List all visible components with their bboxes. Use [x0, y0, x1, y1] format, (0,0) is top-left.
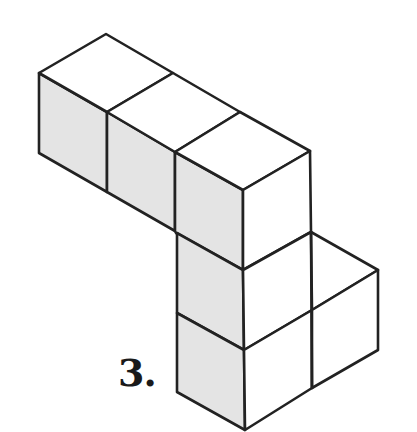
cube-structure: [39, 34, 378, 430]
figure-number-label: 3.: [118, 354, 156, 392]
edge: [311, 232, 312, 388]
isometric-cube-figure: [0, 0, 417, 432]
